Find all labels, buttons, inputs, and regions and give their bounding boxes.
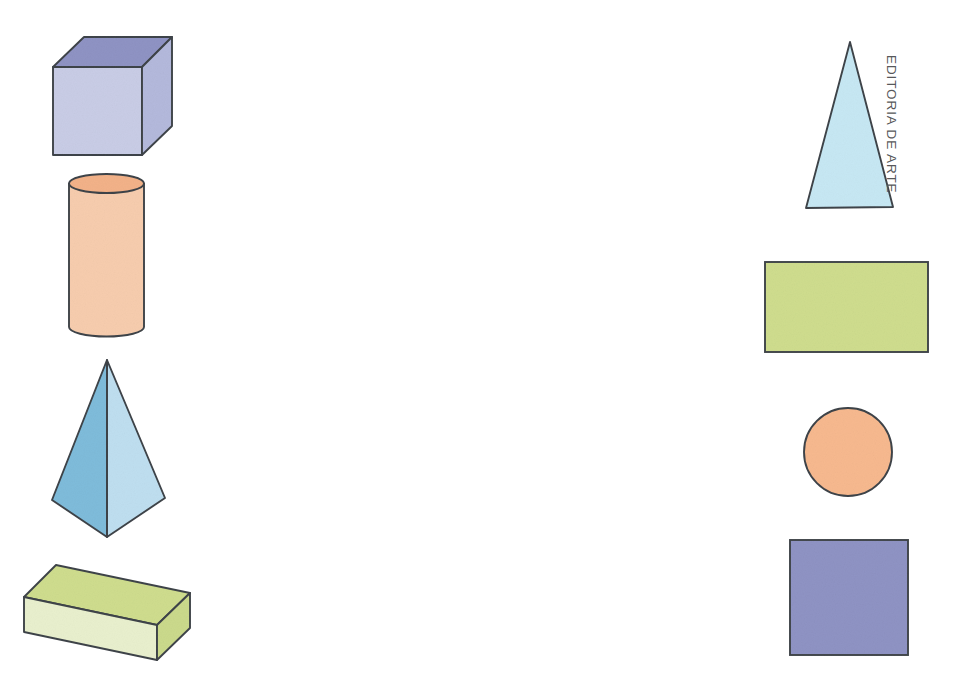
shape-triangle <box>806 42 893 208</box>
illustration-canvas: EDITORIA DE ARTE <box>0 0 964 683</box>
pyramid-face-left <box>52 360 107 537</box>
shape-pyramid <box>52 360 165 537</box>
shape-cylinder <box>69 174 144 337</box>
shape-rectangular-prism <box>24 565 190 660</box>
geometric-figures-svg <box>0 0 964 683</box>
shape-circle <box>804 408 892 496</box>
pyramid-face-right <box>107 360 165 537</box>
cylinder-top-ellipse <box>69 174 144 193</box>
cube-face-front <box>53 67 142 155</box>
shape-cube <box>53 37 172 155</box>
credit-label: EDITORIA DE ARTE <box>882 55 900 235</box>
shape-rectangle <box>765 262 928 352</box>
cylinder-body <box>69 184 144 337</box>
shape-square <box>790 540 908 655</box>
